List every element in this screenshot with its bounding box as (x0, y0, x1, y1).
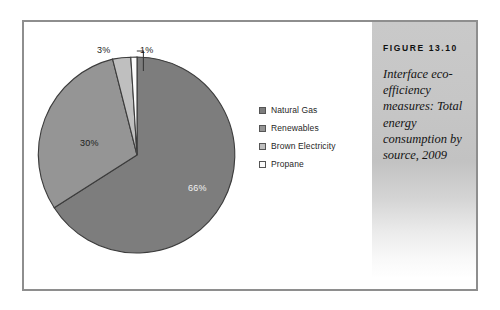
slice-label-brown-electricity: 3% (97, 45, 110, 55)
legend-swatch-brown-electricity (259, 143, 266, 150)
figure-frame: 3% 1% 30% 66% Natural Gas Renewables Bro… (22, 20, 478, 291)
chart-area: 3% 1% 30% 66% Natural Gas Renewables Bro… (24, 22, 372, 289)
pie-chart (27, 45, 247, 265)
legend-swatch-natural-gas (259, 107, 266, 114)
figure-caption-panel: FIGURE 13.10 Interface eco-efficiency me… (372, 22, 476, 289)
legend-item-natural-gas[interactable]: Natural Gas (259, 102, 371, 119)
slice-label-renewables: 30% (80, 138, 99, 148)
legend-item-propane[interactable]: Propane (259, 156, 371, 173)
legend-item-renewables[interactable]: Renewables (259, 120, 371, 137)
figure-caption-text: Interface eco-efficiency measures: Total… (383, 66, 475, 163)
legend-swatch-propane (259, 161, 266, 168)
legend-label-propane: Propane (271, 160, 304, 169)
slice-label-natural-gas: 66% (188, 183, 207, 193)
chart-legend: Natural Gas Renewables Brown Electricity… (259, 102, 371, 174)
legend-swatch-renewables (259, 125, 266, 132)
legend-label-natural-gas: Natural Gas (271, 106, 317, 115)
figure-number-label: FIGURE 13.10 (383, 43, 458, 53)
legend-item-brown-electricity[interactable]: Brown Electricity (259, 138, 371, 155)
legend-label-brown-electricity: Brown Electricity (271, 142, 336, 151)
legend-label-renewables: Renewables (271, 124, 319, 133)
slice-label-propane: 1% (140, 45, 153, 55)
